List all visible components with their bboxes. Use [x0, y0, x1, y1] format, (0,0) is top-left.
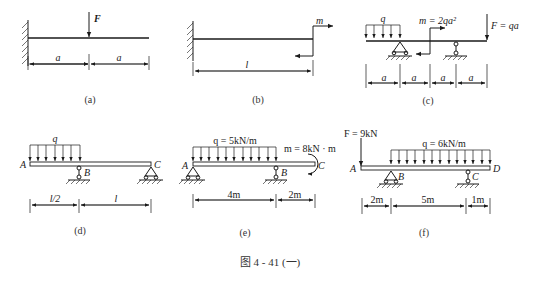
diagram-b: m l (b): [187, 15, 333, 106]
figure-caption: 图 4 - 41 (一): [240, 256, 301, 269]
diagram-a: F a a (a): [22, 12, 149, 106]
beam: [361, 166, 490, 170]
roller-support-icon: [443, 42, 467, 60]
subfigure-caption: (a): [84, 94, 95, 106]
point-label-b: B: [84, 167, 90, 178]
fixed-wall-icon: [187, 21, 193, 61]
dimension-label: a: [412, 72, 417, 83]
subfigure-caption: (f): [419, 227, 429, 239]
figure-canvas: F a a (a) m: [0, 0, 540, 285]
fixed-wall-icon: [22, 20, 28, 66]
distributed-load-label: q: [53, 133, 58, 144]
subfigure-caption: (b): [252, 94, 264, 106]
dimension-label: l: [115, 193, 118, 204]
dimension-label: 2m: [289, 189, 302, 200]
dimension-label: a: [469, 72, 474, 83]
dimension-line: [193, 60, 313, 76]
force-label: F: [93, 13, 101, 24]
couple-label: m = 8kN · m: [284, 143, 336, 154]
point-label-a: A: [19, 159, 27, 170]
distributed-load-icon: [30, 145, 80, 161]
couple-label: m: [316, 15, 323, 26]
dimension-label: a: [56, 52, 61, 63]
subfigure-caption: (c): [422, 95, 433, 107]
dimension-label: a: [382, 72, 387, 83]
force-label: F = 9kN: [344, 128, 377, 139]
distributed-load-label: q = 6kN/m: [422, 138, 466, 149]
point-label-b: B: [398, 171, 404, 182]
diagram-d: q A B C l/2 l (d): [19, 133, 163, 237]
distributed-load-icon: [193, 147, 276, 161]
dimension-label: 1m: [472, 194, 485, 205]
distributed-load-icon: [391, 150, 490, 164]
point-label-b: B: [281, 167, 287, 178]
couple-label: m = 2qa²: [419, 15, 457, 26]
distributed-load-icon: [366, 25, 400, 38]
dimension-label: 2m: [371, 194, 384, 205]
dimension-label: a: [441, 72, 446, 83]
dimension-line: [30, 199, 151, 213]
subfigure-caption: (e): [239, 227, 250, 239]
dimension-label: l/2: [50, 193, 61, 204]
dimension-label: 5m: [422, 194, 435, 205]
diagram-f: F = 9kN q = 6kN/m A B: [344, 128, 501, 239]
beam: [30, 162, 151, 166]
dimension-label: a: [117, 52, 122, 63]
diagram-e: q = 5kN/m A B m = 8kN · m C: [179, 135, 336, 239]
beam: [193, 162, 315, 166]
point-label-c: C: [318, 160, 325, 171]
point-label-c: C: [154, 159, 161, 170]
point-label-a: A: [349, 163, 357, 174]
couple-arrow-icon: [308, 154, 318, 174]
point-label-d: D: [492, 163, 501, 174]
distributed-load-label: q: [381, 13, 386, 24]
diagram-c: q m = 2qa² F = qa: [366, 13, 519, 107]
force-label: F = qa: [490, 20, 519, 31]
dimension-label: l: [246, 59, 249, 70]
point-label-c: C: [472, 171, 479, 182]
pin-support-icon: [386, 42, 412, 60]
dimension-label: 4m: [228, 189, 241, 200]
couple-arrow-icon: [295, 26, 333, 56]
dimension-line: [28, 54, 149, 70]
point-label-a: A: [181, 160, 189, 171]
subfigure-caption: (d): [74, 225, 86, 237]
distributed-load-label: q = 5kN/m: [213, 135, 257, 146]
